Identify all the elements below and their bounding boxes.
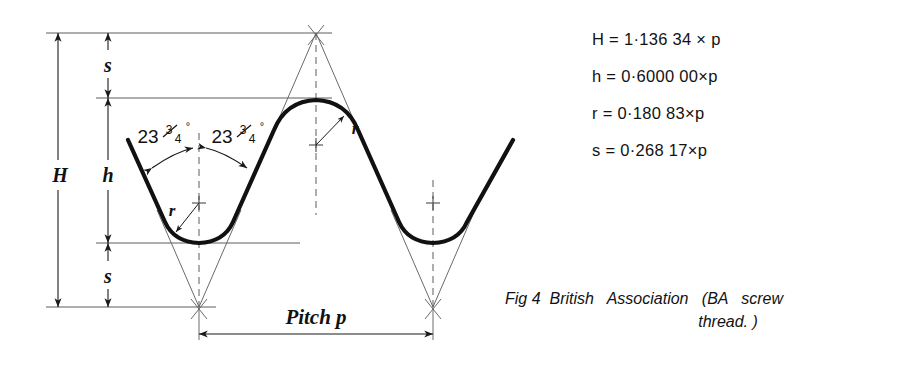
radius-leader-line-crest — [316, 116, 344, 145]
angle-arc-right — [206, 148, 247, 168]
label-pitch: Pitch p — [284, 305, 346, 329]
caption-title: British Association (BA screw — [549, 290, 783, 307]
formula-list: H = 1·136 34 × p h = 0·6000 00×p r = 0·1… — [592, 30, 892, 179]
extension-lines — [46, 33, 332, 307]
formula-H: H = 1·136 34 × p — [592, 30, 892, 48]
label-H: H — [51, 164, 69, 186]
label-r-root: r — [169, 201, 176, 220]
label-s-top: s — [103, 54, 112, 76]
label-h: h — [102, 164, 113, 186]
construction-left-root-flank-left — [157, 210, 199, 307]
label-s-bottom: s — [103, 265, 112, 287]
centerlines — [199, 33, 433, 307]
construction-left-root-flank-right — [199, 210, 241, 307]
angle-left-whole: 23 — [137, 126, 158, 147]
dimension-stack-left: H h s s — [50, 33, 119, 307]
angle-right-denominator: 4 — [249, 132, 256, 146]
caption-first-line: Fig 4 British Association (BA screw — [505, 287, 905, 310]
angle-right-whole: 23 — [211, 126, 232, 147]
figure-caption: Fig 4 British Association (BA screw thre… — [505, 287, 905, 333]
construction-right-root-flank-right — [433, 210, 475, 307]
angle-arc-left — [152, 148, 193, 168]
radius-leader-line-root — [176, 203, 199, 232]
dimension-pitch: Pitch p — [199, 303, 433, 340]
label-r-crest: r — [352, 119, 359, 138]
formula-r: r = 0·180 83×p — [592, 104, 892, 122]
formula-s: s = 0·268 17×p — [592, 141, 892, 159]
flank-angle-annotation: 23 3 4 ° 23 3 4 ° — [137, 120, 264, 168]
angle-label-right: 23 3 4 ° — [211, 120, 264, 147]
radius-leader-crest: r — [316, 116, 359, 145]
caption-figure-number: Fig 4 — [505, 290, 541, 307]
angle-label-left: 23 3 4 ° — [137, 120, 190, 147]
formula-h: h = 0·6000 00×p — [592, 67, 892, 85]
figure-container: H h s s Pitch p 23 3 4 ° — [0, 0, 908, 367]
construction-right-root-flank-left — [391, 210, 433, 307]
angle-right-degree-sign: ° — [260, 120, 264, 132]
angle-left-degree-sign: ° — [186, 120, 190, 132]
radius-leader-root: r — [169, 201, 199, 232]
radius-centre-marks — [192, 138, 440, 210]
angle-left-denominator: 4 — [175, 132, 182, 146]
caption-second-line: thread. ) — [505, 310, 905, 333]
